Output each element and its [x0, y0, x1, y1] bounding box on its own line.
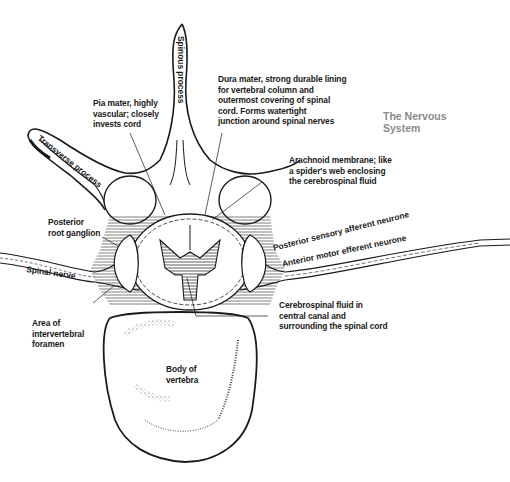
title-line: The Nervous [383, 110, 447, 122]
label-line: the cerebrospinal fluid [289, 176, 392, 187]
label-line: foramen [32, 339, 84, 350]
label-line: intervertebral [32, 329, 84, 340]
label-line: invests cord [93, 119, 159, 130]
label-line: for vertebral column and [218, 85, 346, 96]
label-posterior-root-ganglion: Posterior root ganglion [48, 217, 100, 238]
label-line: vertebra [166, 375, 198, 386]
label-line: junction around spinal nerves [218, 116, 346, 127]
label-line: Body of [166, 364, 198, 375]
label-dura-mater: Dura mater, strong durable lining for ve… [218, 74, 346, 127]
label-cerebrospinal-fluid: Cerebrospinal fluid in central canal and… [279, 300, 388, 332]
label-line: root ganglion [48, 228, 100, 239]
label-line: Pia mater, highly [93, 98, 159, 109]
label-line: outermost covering of spinal [218, 95, 346, 106]
vertebra-cross-section-diagram [0, 0, 510, 482]
label-spinous-process: Spinous process [176, 36, 186, 103]
label-intervertebral-foramen: Area of intervertebral foramen [32, 318, 84, 350]
label-pia-mater: Pia mater, highly vascular; closely inve… [93, 98, 159, 130]
label-line: surrounding the spinal cord [279, 321, 388, 332]
label-arachnoid: Arachnoid membrane; like a spider's web … [289, 155, 392, 187]
label-line: Posterior [48, 217, 100, 228]
label-line: Area of [32, 318, 84, 329]
label-body-of-vertebra: Body of vertebra [166, 364, 198, 385]
label-line: Arachnoid membrane; like [289, 155, 392, 166]
title-line: System [383, 122, 447, 134]
label-line: Cerebrospinal fluid in [279, 300, 388, 311]
label-line: a spider's web enclosing [289, 166, 392, 177]
label-line: Dura mater, strong durable lining [218, 74, 346, 85]
label-line: central canal and [279, 311, 388, 322]
label-line: cord. Forms watertight [218, 106, 346, 117]
section-title: The Nervous System [383, 110, 447, 134]
label-line: vascular; closely [93, 109, 159, 120]
